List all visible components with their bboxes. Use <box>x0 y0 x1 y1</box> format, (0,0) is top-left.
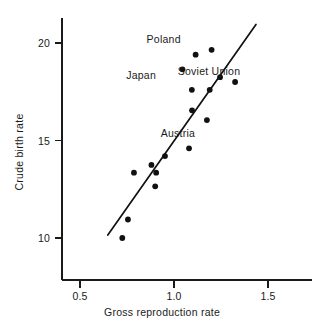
x-tick-marks <box>80 280 268 288</box>
point-annotation: Japan <box>126 69 156 81</box>
point-annotation: Soviet Union <box>178 65 241 77</box>
data-point <box>131 170 137 176</box>
data-point <box>232 79 238 85</box>
data-point <box>119 235 125 241</box>
scatter-chart: 101520 0.51.01.5 PolandJapanSoviet Union… <box>0 0 324 330</box>
point-annotation: Austria <box>161 127 195 139</box>
data-point <box>189 87 195 93</box>
data-point <box>193 52 199 58</box>
y-tick-label: 20 <box>16 38 50 49</box>
y-axis-title: Crude birth rate <box>13 92 25 212</box>
x-tick-label: 1.0 <box>154 291 194 302</box>
data-point <box>152 183 158 189</box>
x-tick-label: 0.5 <box>60 291 100 302</box>
plot-area <box>0 0 324 330</box>
data-point <box>186 145 192 151</box>
point-annotation: Poland <box>147 33 181 45</box>
x-tick-label: 1.5 <box>248 291 288 302</box>
data-point <box>125 217 131 223</box>
data-point <box>162 153 168 159</box>
data-point <box>189 107 195 113</box>
data-point <box>153 170 159 176</box>
data-point <box>204 117 210 123</box>
data-point <box>207 87 213 93</box>
x-axis-title: Gross reproduction rate <box>0 306 324 318</box>
data-point <box>149 162 155 168</box>
y-tick-label: 10 <box>16 233 50 244</box>
data-point <box>209 47 215 53</box>
y-tick-marks <box>55 43 62 238</box>
